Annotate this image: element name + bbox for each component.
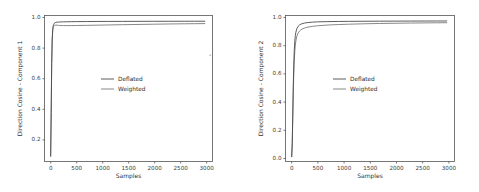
- chart-panel-component-1: 1.0 0.8 0.6 0.4 0.2 0 500 1000 1500 2000: [0, 0, 240, 192]
- y-axis-title-right: Direction Cosine - Component 2: [257, 40, 265, 136]
- x-tick-label: 3000: [442, 165, 457, 171]
- y-tick-label: 0.8: [32, 45, 41, 51]
- legend-label-deflated: Deflated: [350, 76, 375, 82]
- y-tick-label: 0.2: [32, 136, 41, 142]
- x-tick-label: 2000: [148, 165, 163, 171]
- y-tick-label: 1.0: [273, 14, 282, 20]
- x-tick-label: 1500: [363, 165, 378, 171]
- x-axis-title-right: Samples: [357, 172, 383, 180]
- x-tick-label: 1500: [122, 165, 137, 171]
- x-tick-label: 500: [71, 165, 82, 171]
- y-axis-title-left: Direction Cosine - Component 1: [16, 40, 24, 136]
- x-tick-label: 500: [313, 165, 324, 171]
- x-tick-label: 2500: [416, 165, 431, 171]
- y-tick-label: 0.4: [273, 99, 282, 105]
- y-ticks-left: 1.0 0.8 0.6 0.4 0.2: [32, 14, 45, 142]
- x-tick-label: 1000: [337, 165, 352, 171]
- x-tick-label: 0: [49, 165, 53, 171]
- legend-right: Deflated Weighted: [333, 76, 378, 93]
- y-tick-label: 0.8: [273, 42, 282, 48]
- y-ticks-right: 1.0 0.8 0.6 0.4 0.2 0.0: [273, 14, 286, 161]
- x-axis-title-left: Samples: [116, 172, 142, 180]
- x-tick-label: 2500: [174, 165, 189, 171]
- x-tick-label: 3000: [200, 165, 215, 171]
- chart-svg-right: 1.0 0.8 0.6 0.4 0.2 0.0 0 500 1000 1500 …: [240, 0, 479, 192]
- x-tick-label: 0: [290, 165, 294, 171]
- legend-label-weighted: Weighted: [350, 86, 378, 93]
- x-ticks-left: 0 500 1000 1500 2000 2500 3000: [49, 162, 214, 171]
- legend-left: Deflated Weighted: [101, 76, 146, 93]
- y-tick-label: 0.2: [273, 127, 282, 133]
- chart-svg-left: 1.0 0.8 0.6 0.4 0.2 0 500 1000 1500 2000: [0, 0, 240, 192]
- y-tick-label: 0.4: [32, 106, 41, 112]
- y-tick-label: 0.0: [273, 155, 282, 161]
- stray-speck: [210, 55, 212, 57]
- legend-label-deflated: Deflated: [118, 76, 143, 82]
- x-ticks-right: 0 500 1000 1500 2000 2500 3000: [290, 162, 457, 171]
- y-tick-label: 0.6: [32, 75, 41, 81]
- y-tick-label: 0.6: [273, 70, 282, 76]
- x-tick-label: 1000: [96, 165, 111, 171]
- x-tick-label: 2000: [389, 165, 404, 171]
- figure-canvas: 1.0 0.8 0.6 0.4 0.2 0 500 1000 1500 2000: [0, 0, 479, 192]
- y-tick-label: 1.0: [32, 14, 41, 20]
- legend-label-weighted: Weighted: [118, 86, 146, 93]
- chart-panel-component-2: 1.0 0.8 0.6 0.4 0.2 0.0 0 500 1000 1500 …: [240, 0, 479, 192]
